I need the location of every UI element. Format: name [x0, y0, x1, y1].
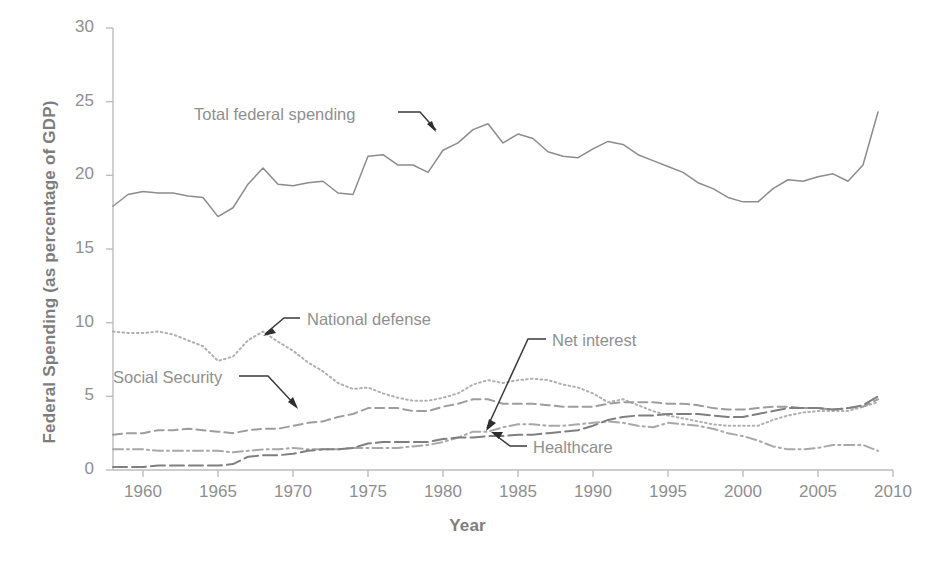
leader-total-federal-spending: [398, 112, 436, 130]
axes: [106, 28, 893, 477]
x-axis-ticks: [143, 470, 893, 477]
series-line-total-federal-spending: [113, 112, 878, 217]
y-axis-ticks: [106, 28, 113, 470]
arrowhead-total-federal-spending: [427, 121, 436, 132]
plot-canvas: [0, 0, 935, 561]
data-series-layer: [113, 112, 878, 467]
arrowhead-national-defense: [263, 328, 276, 336]
series-line-national-defense: [113, 332, 878, 426]
chart-figure: Federal Spending (as percentage of GDP) …: [0, 0, 935, 561]
leader-social-security: [239, 376, 296, 406]
leader-net-interest: [487, 339, 546, 428]
